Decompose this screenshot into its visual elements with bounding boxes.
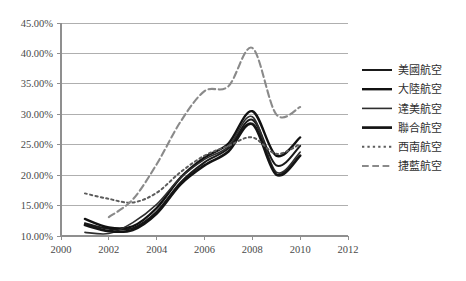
x-axis-tick-label: 2010: [290, 244, 311, 255]
y-axis-tick-label: 45.00%: [21, 18, 54, 29]
line-chart: 10.00%15.00%20.00%25.00%30.00%35.00%40.0…: [0, 0, 466, 281]
x-axis-tick-label: 2008: [242, 244, 263, 255]
legend-label-5: 捷藍航空: [398, 159, 442, 173]
legend-label-3: 聯合航空: [398, 121, 442, 135]
x-axis-tick-label: 2002: [98, 244, 119, 255]
y-axis-tick-label: 35.00%: [21, 78, 54, 89]
chart-container: 10.00%15.00%20.00%25.00%30.00%35.00%40.0…: [0, 0, 466, 281]
legend-label-1: 大陸航空: [398, 82, 442, 96]
y-axis-tick-label: 40.00%: [21, 48, 54, 59]
y-axis-tick-label: 15.00%: [21, 200, 54, 211]
y-axis-tick-label: 30.00%: [21, 109, 54, 120]
x-axis-tick-label: 2012: [338, 244, 359, 255]
x-axis-tick-label: 2000: [51, 244, 72, 255]
x-axis-tick-label: 2006: [194, 244, 215, 255]
y-axis-tick-label: 10.00%: [21, 231, 54, 242]
legend-label-2: 達美航空: [398, 102, 442, 116]
legend-label-4: 西南航空: [398, 140, 442, 154]
y-axis-tick-label: 20.00%: [21, 170, 54, 181]
x-axis-tick-label: 2004: [146, 244, 168, 255]
y-axis-tick-label: 25.00%: [21, 139, 54, 150]
legend-label-0: 美國航空: [398, 63, 442, 77]
